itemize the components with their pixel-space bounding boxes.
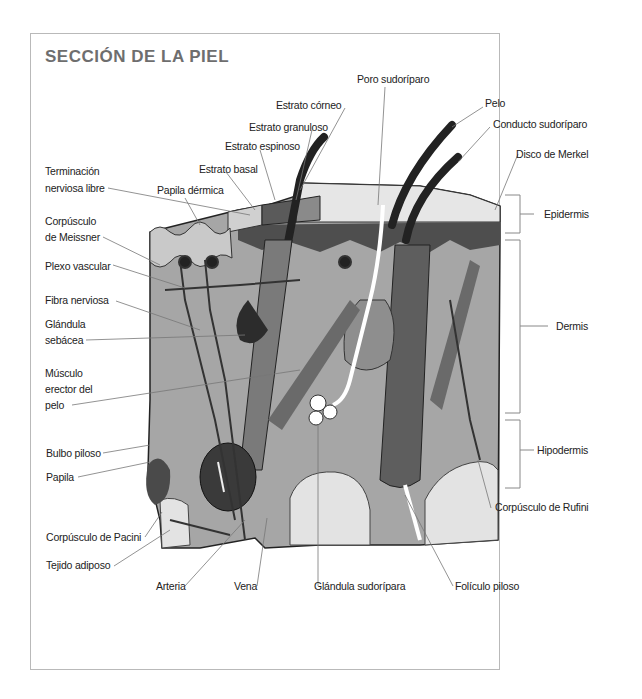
label-vena: Vena [234,578,257,594]
label-terminacion-nerviosa-line2: nerviosa libre [45,180,105,196]
label-estrato-basal: Estrato basal [199,161,258,177]
label-foliculo-piloso: Folículo piloso [455,578,519,594]
label-estrato-corneo: Estrato córneo [276,97,342,113]
label-glandula-sebacea-line1: Glándula [45,316,85,332]
label-musculo-erector-line3: pelo [45,397,64,413]
label-papila: Papila [46,469,74,485]
label-epidermis: Epidermis [544,206,589,222]
label-arteria: Arteria [156,578,186,594]
label-dermis: Dermis [556,318,588,334]
label-corpusculo-rufini: Corpúsculo de Rufini [495,499,588,515]
label-fibra-nerviosa: Fibra nerviosa [45,292,109,308]
label-tejido-adiposo: Tejido adiposo [46,557,110,573]
label-plexo-vascular: Plexo vascular [45,258,110,274]
label-bulbo-piloso: Bulbo piloso [46,445,101,461]
label-pelo: Pelo [485,95,505,111]
label-estrato-espinoso: Estrato espinoso [225,138,300,154]
label-corpusculo-pacini: Corpúsculo de Pacini [46,529,141,545]
label-glandula-sudoripara: Glándula sudorípara [314,578,405,594]
label-poro-sudoriparo: Poro sudoríparo [357,71,429,87]
label-meissner-line2: de Meissner [45,229,100,245]
label-glandula-sebacea-line2: sebácea [45,332,83,348]
label-hipodermis: Hipodermis [537,442,588,458]
label-musculo-erector-line1: Músculo [45,365,83,381]
label-musculo-erector-line2: erector del [45,381,92,397]
label-estrato-granuloso: Estrato granuloso [249,119,328,135]
label-disco-merkel: Disco de Merkel [516,146,588,162]
label-terminacion-nerviosa-line1: Terminación [45,163,99,179]
label-meissner-line1: Corpúsculo [45,213,96,229]
label-papila-dermica: Papila dérmica [157,182,224,198]
label-conducto-sudoriparo: Conducto sudoríparo [493,116,587,132]
